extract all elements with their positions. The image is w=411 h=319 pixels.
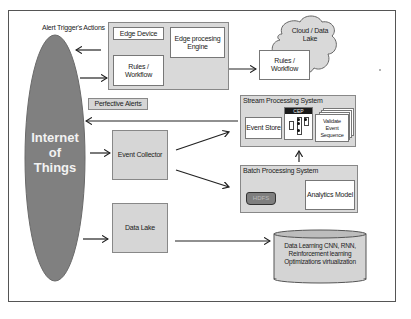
iot-label-line1: Internet (25, 130, 85, 145)
cep-dot-1 (297, 118, 300, 121)
iot-label-line2: of (25, 145, 85, 160)
data-learning-label: Data Learning CNN, RNN, Reinforcement le… (277, 242, 363, 266)
validate-event-box: Validate Event Sequence (315, 114, 349, 142)
cep-dot-3 (297, 129, 300, 132)
cep-glyph-rect (289, 121, 294, 130)
edge-device-box: Edge Device (113, 27, 164, 40)
cloud-label: Cloud / Data Lake (290, 27, 330, 43)
cep-box: CEP (284, 107, 313, 140)
iot-label: Internet of Things (25, 130, 85, 175)
cep-dot-2 (297, 122, 300, 125)
alert-trigger-label: Alert Trigger's Actions (42, 24, 105, 32)
cep-header: CEP (285, 108, 312, 114)
iot-label-line3: Things (25, 160, 85, 175)
event-collector-box: Event Collector (112, 130, 168, 180)
cloud-rules-box: Rules / Workflow (259, 50, 310, 80)
edge-engine-box: Edge procesing Engine (170, 27, 225, 58)
analytics-model-box: Analytics Model (305, 180, 355, 210)
data-lake-box: Data Lake (112, 203, 168, 253)
hdfs-cylinder: HDFS (246, 192, 276, 205)
event-store-box: Event Store (245, 117, 282, 139)
cep-dot-4 (304, 118, 307, 121)
edge-rules-box: Rules / Workflow (113, 55, 164, 86)
perfective-alerts-box: Perfective Alerts (88, 98, 148, 110)
stream-processing-title: Stream Processing System (243, 97, 323, 105)
batch-processing-title: Batch Processing System (243, 167, 318, 175)
